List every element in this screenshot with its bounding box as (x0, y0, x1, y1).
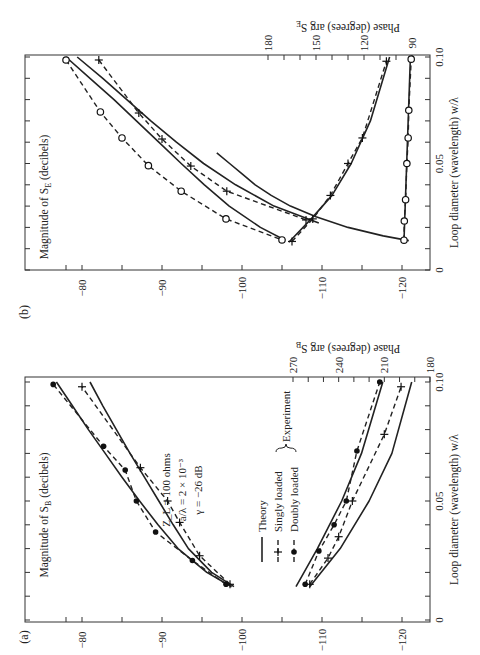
dot-marker (190, 558, 196, 564)
dot-marker (331, 522, 337, 528)
theory-curve (66, 57, 285, 240)
circle-marker (402, 197, 408, 203)
dot-marker (50, 382, 56, 388)
experiment-curve (305, 382, 380, 584)
w-tick-label: 0.05 (433, 153, 445, 173)
dot-marker (101, 443, 107, 449)
magnitude-tick-label: −80 (76, 279, 88, 297)
phase-tick-label: 270 (287, 356, 299, 373)
legend-label: Singly loaded (272, 471, 284, 532)
x-axis-title: Loop diameter (wavelength) w/λ (448, 97, 461, 248)
annotation-text: Z_L = 100 ohms (160, 453, 172, 526)
panel-label: (b) (17, 305, 31, 319)
dot-marker (343, 498, 349, 504)
w-tick-label: 0.05 (433, 491, 445, 511)
plot-lines (53, 57, 412, 587)
axis-labels: −80−90−100−110−12000.050.10270240210180L… (17, 19, 461, 651)
circle-marker (401, 218, 407, 224)
circle-marker (279, 237, 285, 243)
annotation-text: a/λ = 2 × 10⁻³ (176, 458, 188, 521)
experiment-curve (66, 60, 282, 240)
dot-marker (316, 548, 322, 554)
annotation-text: γ = −26 dB (192, 465, 204, 515)
experiment-curve (82, 387, 230, 585)
phase-tick-label: 120 (358, 34, 370, 51)
theory-curve (296, 382, 383, 587)
theory-curve (289, 57, 390, 242)
circle-marker (405, 135, 411, 141)
circle-marker (408, 56, 414, 62)
phase-axis-title: Phase (degrees) arg SE (296, 19, 400, 34)
magnitude-tick-label: −110 (316, 276, 328, 299)
phase-tick-label: 90 (406, 37, 418, 49)
experiment-curve (310, 387, 401, 585)
circle-marker (406, 107, 412, 113)
legend-label: Theory (256, 500, 268, 532)
axis-ticks (25, 55, 430, 622)
circle-marker (63, 57, 69, 63)
magnitude-tick-label: −110 (316, 628, 328, 651)
phase-tick-label: 150 (310, 34, 322, 51)
figure-canvas: −80−90−100−110−12000.050.10270240210180L… (0, 0, 480, 655)
panel-label: (a) (17, 630, 31, 643)
circle-marker (178, 188, 184, 194)
x-axis-title: Loop diameter (wavelength) w/λ (448, 434, 461, 585)
theory-curve (217, 153, 409, 241)
magnitude-tick-label: −120 (396, 276, 408, 299)
w-tick-label: 0.10 (433, 372, 445, 392)
circle-marker (223, 216, 229, 222)
theory-curve (404, 57, 410, 240)
theory-curve (77, 57, 319, 223)
circle-marker (145, 162, 151, 168)
phase-tick-label: 180 (424, 356, 436, 373)
dot-marker (153, 529, 159, 535)
dot-marker (134, 498, 140, 504)
experiment-curve (99, 60, 306, 220)
w-tick-label: 0 (433, 267, 445, 273)
legend-experiment-label: Experiment (280, 391, 292, 442)
dot-marker (122, 467, 128, 473)
circle-marker (119, 135, 125, 141)
magnitude-tick-label: −100 (236, 628, 248, 651)
w-tick-label: 0.10 (433, 47, 445, 67)
phase-tick-label: 240 (333, 356, 345, 373)
phase-axis-title: Phase (degrees) arg SB (296, 340, 400, 355)
magnitude-tick-label: −80 (76, 631, 88, 649)
phase-tick-label: 210 (378, 356, 390, 373)
theory-curve (56, 382, 231, 587)
magnitude-axis-title: Magnitude of SB (decibels) (38, 452, 53, 577)
phase-tick-label: 180 (262, 34, 274, 51)
legend-label: Doubly loaded (288, 466, 300, 532)
magnitude-axis-title: Magnitude of SE (decibels) (38, 135, 53, 260)
dot-marker (354, 448, 360, 454)
magnitude-tick-label: −120 (396, 628, 408, 651)
circle-marker (97, 109, 103, 115)
circle-marker (401, 237, 407, 243)
experiment-curve (292, 61, 386, 241)
circle-marker (404, 160, 410, 166)
magnitude-tick-label: −90 (156, 631, 168, 649)
plot-markers (50, 56, 414, 588)
w-tick-label: 0 (433, 617, 445, 623)
dot-marker (377, 379, 383, 385)
magnitude-tick-label: −100 (236, 276, 248, 299)
magnitude-tick-label: −90 (156, 279, 168, 297)
